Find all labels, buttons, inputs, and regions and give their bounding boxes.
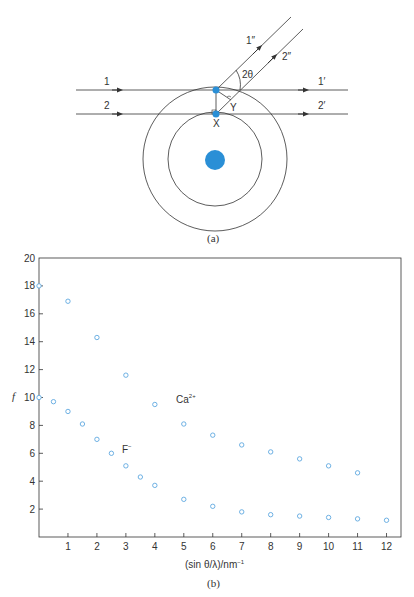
x-tick-label: 4 [152, 541, 158, 552]
x-tick-label: 10 [323, 541, 335, 552]
data-point-F [355, 517, 359, 521]
data-point-F [95, 437, 99, 441]
caption-b: (b) [207, 577, 220, 590]
caption-a: (a) [207, 232, 220, 245]
figure-canvas: 1 2 1′ 2′ 1″ 2″ 2θ Y X (a) 2468101214161… [0, 0, 414, 597]
y-axis-label: f [12, 390, 17, 402]
data-point-Ca2 [240, 443, 244, 447]
x-tick-label: 2 [94, 541, 100, 552]
data-point-F [240, 510, 244, 514]
label-angle: 2θ [242, 69, 254, 80]
x-tick-label: 11 [352, 541, 363, 552]
x-tick-label: 9 [297, 541, 303, 552]
x-tick-label: 3 [123, 541, 129, 552]
data-point-Ca2 [66, 299, 70, 303]
scatter-2-arrow [268, 56, 275, 63]
data-point-F [109, 451, 113, 455]
x-tick-label: 12 [381, 541, 393, 552]
atom-2 [213, 111, 220, 118]
x-tick-label: 8 [268, 541, 274, 552]
data-point-Ca2 [268, 450, 272, 454]
label-beam-2: 2 [104, 100, 110, 111]
data-point-F [51, 399, 55, 403]
y-tick-label: 16 [24, 308, 36, 319]
data-points [37, 284, 389, 523]
right-angle-mark-y [227, 96, 231, 97]
data-point-Ca2 [124, 373, 128, 377]
data-point-Ca2 [297, 457, 301, 461]
data-point-F [297, 514, 301, 518]
nucleus [205, 150, 225, 170]
data-point-Ca2 [95, 335, 99, 339]
y-tick-label: 20 [24, 253, 36, 264]
data-point-F [211, 504, 215, 508]
plot-frame [39, 258, 401, 537]
series-label-f: F− [122, 443, 132, 455]
scatter-1-arrow [253, 47, 260, 54]
data-point-F [124, 464, 128, 468]
y-tick-label: 4 [29, 476, 35, 487]
label-beam-2-out: 2′ [318, 100, 326, 111]
label-scatter-2: 2″ [282, 51, 292, 62]
data-point-F [268, 512, 272, 516]
data-point-Ca2 [355, 471, 359, 475]
x-tick-label: 7 [239, 541, 245, 552]
y-tick-label: 8 [29, 420, 35, 431]
x-tick-label: 6 [210, 541, 216, 552]
data-point-F [37, 395, 41, 399]
y-tick-label: 14 [24, 336, 36, 347]
chart-b: 2468101214161820 123456789101112 f Ca2+ … [12, 253, 401, 591]
label-point-y: Y [230, 102, 237, 113]
data-point-F [384, 518, 388, 522]
label-beam-1-out: 1′ [318, 76, 326, 87]
data-point-Ca2 [211, 433, 215, 437]
data-point-Ca2 [153, 402, 157, 406]
diagram-a: 1 2 1′ 2′ 1″ 2″ 2θ Y X (a) [76, 17, 348, 245]
y-tick-label: 18 [24, 280, 36, 291]
label-scatter-1: 1″ [246, 35, 256, 46]
data-point-Ca2 [326, 464, 330, 468]
data-point-F [182, 497, 186, 501]
data-point-F [153, 483, 157, 487]
data-point-Ca2 [37, 284, 41, 288]
y-tick-label: 6 [29, 448, 35, 459]
x-tick-label: 1 [65, 541, 71, 552]
y-tick-label: 2 [29, 504, 35, 515]
label-point-x: X [213, 118, 220, 129]
x-axis-ticks: 123456789101112 [65, 533, 392, 552]
data-point-F [138, 475, 142, 479]
x-tick-label: 5 [181, 541, 187, 552]
data-point-F [66, 409, 70, 413]
data-point-F [80, 422, 84, 426]
angle-arc [236, 70, 240, 90]
atom-1 [213, 87, 220, 94]
x-axis-label: (sin θ/λ)/nm−1 [185, 559, 245, 570]
y-axis-ticks: 2468101214161820 [24, 253, 43, 515]
y-tick-label: 10 [24, 392, 36, 403]
data-point-F [326, 515, 330, 519]
series-label-ca: Ca2+ [176, 393, 196, 405]
data-point-Ca2 [182, 422, 186, 426]
label-beam-1: 1 [104, 76, 110, 87]
y-tick-label: 12 [24, 364, 36, 375]
